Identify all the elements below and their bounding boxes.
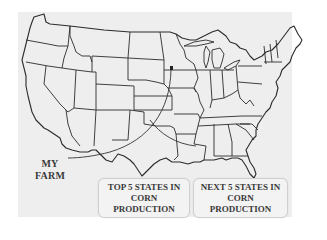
legend-top-5-states: TOP 5 STATES IN CORN PRODUCTION: [98, 178, 190, 218]
legend-next-5-line-2: CORN: [194, 193, 287, 204]
border-la-ms: [194, 134, 206, 160]
border-mt-nd: [128, 32, 130, 58]
border-nd-sd: [128, 58, 164, 60]
border-ky-tn: [200, 116, 242, 118]
lake-superior: [184, 40, 214, 46]
michigan-lower-peninsula: [212, 48, 224, 68]
border-mo-ar: [174, 114, 200, 118]
border-az-nm: [94, 110, 96, 146]
legend-top-5-line-1: TOP 5 STATES IN: [99, 182, 189, 193]
farm-marker-icon: [170, 66, 173, 70]
legend-next-5-line-3: PRODUCTION: [194, 204, 287, 215]
border-in-oh: [222, 70, 224, 98]
border-vt-nh: [270, 44, 272, 62]
border-ca-az: [66, 110, 80, 146]
border-ny-vt-nh: [264, 46, 266, 64]
highlight-arc: [150, 120, 196, 146]
border-ca-nv: [44, 66, 66, 110]
legend-next-5-line-1: NEXT 5 STATES IN: [194, 182, 287, 193]
border-nc-sc: [240, 124, 258, 130]
border-nh-me: [276, 40, 278, 58]
lake-erie: [224, 60, 240, 70]
lake-michigan: [204, 46, 210, 68]
legend-top-5-line-3: PRODUCTION: [99, 204, 189, 215]
border-or-id: [62, 46, 68, 68]
border-oh-pa: [236, 66, 238, 90]
border-pa-md: [238, 82, 262, 84]
border-ne-ks: [134, 86, 172, 96]
my-farm-label: MY FARM: [30, 158, 70, 182]
legend-next-5-states: NEXT 5 STATES IN CORN PRODUCTION: [193, 178, 288, 218]
border-il-in: [210, 70, 212, 108]
border-id-wy: [76, 56, 92, 72]
border-ia-mo: [168, 88, 196, 92]
border-sd-ne: [128, 80, 164, 84]
border-wa-or: [26, 40, 68, 46]
border-tx-la: [174, 134, 178, 160]
border-al-ga: [228, 124, 232, 156]
border-nm-tx: [112, 110, 130, 140]
border-ar-la: [174, 128, 196, 134]
border-nd-mn: [160, 32, 164, 60]
border-nv-ut: [62, 68, 76, 112]
border-ga-sc: [236, 124, 254, 140]
mississippi-river: [194, 70, 204, 134]
border-or-ca: [26, 62, 62, 68]
border-id-mt: [70, 26, 92, 62]
border-mt-wy: [92, 56, 128, 58]
my-farm-label-line-1: MY: [30, 158, 70, 170]
my-farm-label-line-2: FARM: [30, 170, 70, 182]
border-wv-va: [238, 90, 254, 106]
border-oh-ky-wv: [212, 90, 238, 100]
border-ut-az: [74, 108, 96, 110]
legend-top-5-line-2: CORN: [99, 193, 189, 204]
farm-pointer-line: [68, 70, 171, 158]
